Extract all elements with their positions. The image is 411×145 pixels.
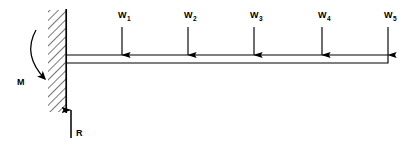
load-label-subscript: 2 (193, 15, 197, 22)
diagram-canvas: W1W2W3W4W5 R M (0, 0, 411, 145)
point-load-w1: W1 (118, 10, 131, 55)
load-label: W3 (250, 10, 263, 22)
moment-label: M (17, 77, 25, 87)
wall-hatch-fill (48, 10, 66, 112)
fixed-wall-support (48, 9, 66, 113)
beam-outline (66, 55, 388, 63)
load-label: W1 (118, 10, 131, 22)
reaction-force-R: R (71, 110, 83, 138)
point-load-w5: W5 (384, 10, 397, 55)
load-label-subscript: 4 (327, 15, 331, 22)
point-loads-group: W1W2W3W4W5 (118, 10, 397, 55)
load-label-subscript: 3 (259, 15, 263, 22)
cantilever-beam (66, 55, 388, 63)
load-label-subscript: 5 (393, 15, 397, 22)
load-label: W4 (318, 10, 331, 22)
point-load-w2: W2 (184, 10, 197, 55)
cantilever-beam-diagram: W1W2W3W4W5 R M (0, 0, 411, 145)
point-load-w4: W4 (318, 10, 331, 55)
load-label: W2 (184, 10, 197, 22)
load-label: W5 (384, 10, 397, 22)
moment-M: M (17, 30, 45, 87)
moment-arc-icon (31, 30, 45, 79)
load-label-subscript: 1 (127, 15, 131, 22)
reaction-label: R (76, 128, 83, 138)
point-load-w3: W3 (250, 10, 263, 55)
